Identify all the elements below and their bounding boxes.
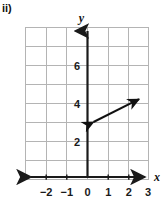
- coordinate-plane-plot: 6 4 2 −2 −1 0 1 2 3 y x: [0, 0, 167, 206]
- x-tick-label-neg2: −2: [40, 186, 53, 198]
- y-tick-label-6: 6: [74, 60, 80, 72]
- graph-figure: ii): [0, 0, 167, 206]
- x-tick-label-1: 1: [105, 186, 111, 198]
- x-tick-label-0: 0: [84, 186, 90, 198]
- x-tick-label-neg1: −1: [61, 186, 74, 198]
- y-tick-label-4: 4: [74, 98, 81, 110]
- y-axis-label: y: [77, 11, 85, 25]
- x-axis-label: x: [153, 170, 160, 184]
- x-tick-label-3: 3: [145, 186, 151, 198]
- y-tick-label-2: 2: [74, 136, 80, 148]
- x-tick-label-2: 2: [126, 186, 132, 198]
